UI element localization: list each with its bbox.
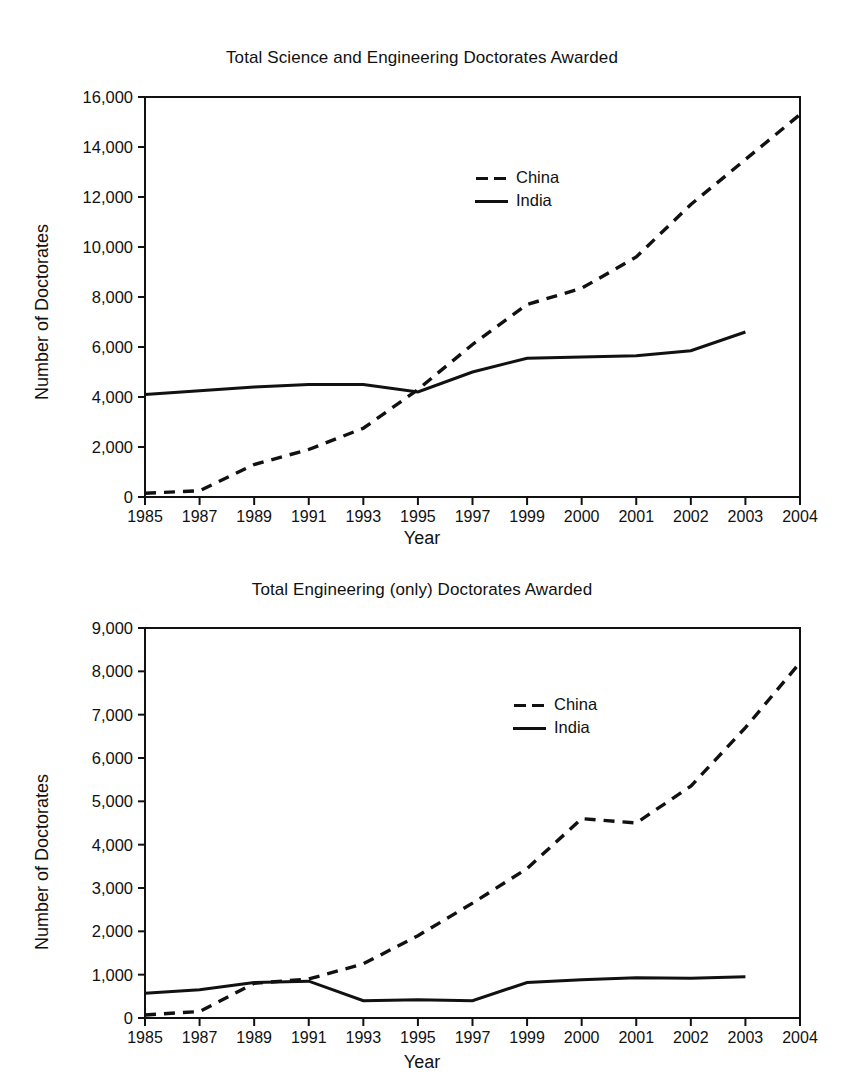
x-axis-tick-label: 1987 — [182, 508, 218, 526]
y-axis-tick-label: 3,000 — [0, 879, 133, 898]
x-axis-tick-label: 1989 — [236, 1029, 272, 1047]
y-axis-tick-label: 0 — [0, 488, 133, 507]
x-axis-tick-label: 2004 — [782, 1029, 818, 1047]
y-axis-tick-label: 7,000 — [0, 705, 133, 724]
x-axis-tick-label: 1989 — [236, 508, 272, 526]
y-axis-tick-label: 4,000 — [0, 835, 133, 854]
series-line-india — [145, 332, 745, 395]
y-axis-tick-label: 14,000 — [0, 138, 133, 157]
legend-label: China — [516, 169, 559, 186]
legend-label: China — [554, 696, 597, 713]
series-line-china — [145, 663, 800, 1015]
chart-1-x-axis-label: Year — [0, 528, 844, 549]
legend-label: India — [554, 719, 590, 736]
chart-2-legend: ChinaIndia — [512, 693, 597, 739]
y-axis-tick-label: 6,000 — [0, 338, 133, 357]
x-axis-tick-label: 1997 — [455, 508, 491, 526]
y-axis-tick-label: 1,000 — [0, 965, 133, 984]
chart-2-x-axis-label: Year — [0, 1052, 844, 1073]
x-axis-tick-label: 1993 — [346, 508, 382, 526]
legend-item-india[interactable]: India — [512, 716, 597, 739]
x-axis-tick-label: 2001 — [618, 508, 654, 526]
y-axis-tick-label: 8,000 — [0, 662, 133, 681]
x-axis-tick-label: 2003 — [728, 1029, 764, 1047]
y-axis-tick-label: 12,000 — [0, 188, 133, 207]
x-axis-tick-label: 1995 — [400, 508, 436, 526]
y-axis-tick-label: 9,000 — [0, 619, 133, 638]
y-axis-tick-label: 2,000 — [0, 922, 133, 941]
legend-item-china[interactable]: China — [512, 693, 597, 716]
x-axis-tick-label: 1993 — [346, 1029, 382, 1047]
x-axis-tick-label: 1999 — [509, 1029, 545, 1047]
legend-swatch-solid-icon — [512, 721, 548, 735]
y-axis-tick-label: 8,000 — [0, 288, 133, 307]
x-axis-tick-label: 2003 — [728, 508, 764, 526]
x-axis-tick-label: 1985 — [127, 508, 163, 526]
chart-1-legend: ChinaIndia — [474, 166, 559, 212]
y-axis-tick-label: 10,000 — [0, 238, 133, 257]
chart-science-and-engineering: Total Science and Engineering Doctorates… — [0, 0, 844, 560]
x-axis-tick-label: 2002 — [673, 508, 709, 526]
legend-swatch-dashed-icon — [512, 698, 548, 712]
legend-swatch-solid-icon — [474, 194, 510, 208]
x-axis-tick-label: 1985 — [127, 1029, 163, 1047]
chart-1-svg — [0, 0, 844, 560]
y-axis-tick-label: 6,000 — [0, 749, 133, 768]
x-axis-tick-label: 1991 — [291, 508, 327, 526]
y-axis-tick-label: 2,000 — [0, 438, 133, 457]
x-axis-tick-label: 1997 — [455, 1029, 491, 1047]
x-axis-tick-label: 2000 — [564, 1029, 600, 1047]
x-axis-tick-label: 1995 — [400, 1029, 436, 1047]
legend-item-china[interactable]: China — [474, 166, 559, 189]
x-axis-tick-label: 1999 — [509, 508, 545, 526]
legend-item-india[interactable]: India — [474, 189, 559, 212]
x-axis-tick-label: 2004 — [782, 508, 818, 526]
series-line-india — [145, 977, 745, 1001]
legend-swatch-dashed-icon — [474, 171, 510, 185]
y-axis-tick-label: 4,000 — [0, 388, 133, 407]
y-axis-tick-label: 16,000 — [0, 88, 133, 107]
series-line-china — [145, 115, 800, 494]
y-axis-tick-label: 0 — [0, 1009, 133, 1028]
x-axis-tick-label: 1987 — [182, 1029, 218, 1047]
chart-1-plot-area — [0, 0, 844, 560]
x-axis-tick-label: 2001 — [618, 1029, 654, 1047]
x-axis-tick-label: 2002 — [673, 1029, 709, 1047]
x-axis-tick-label: 1991 — [291, 1029, 327, 1047]
legend-label: India — [516, 192, 552, 209]
x-axis-tick-label: 2000 — [564, 508, 600, 526]
chart-engineering-only: Total Engineering (only) Doctorates Awar… — [0, 560, 844, 1091]
y-axis-tick-label: 5,000 — [0, 792, 133, 811]
